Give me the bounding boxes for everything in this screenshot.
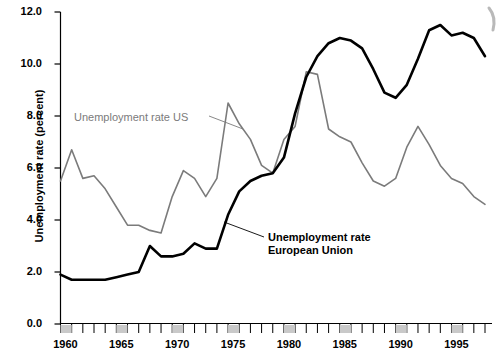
x-tick-label: 1970 [157, 338, 197, 350]
y-tick-label: 10.0 [8, 57, 42, 69]
y-tick-label: 12.0 [8, 5, 42, 17]
x-tick-label: 1960 [46, 338, 86, 350]
chart-plot-area [0, 0, 501, 358]
eu-annotation-line-1: Unemployment rate [268, 231, 371, 244]
x-tick-band [61, 325, 72, 333]
x-tick-label: 1985 [325, 338, 365, 350]
x-tick-label: 1975 [213, 338, 253, 350]
eu-annotation-line-2: European Union [268, 244, 371, 257]
x-tick-band [284, 325, 295, 333]
x-tick-band [396, 325, 407, 333]
x-tick-band [451, 325, 462, 333]
y-tick-label: 4.0 [8, 213, 42, 225]
us-annotation-line-1: Unemployment rate US [74, 111, 188, 123]
series-line-unemployment-rate-us [61, 72, 486, 233]
y-tick-label: 6.0 [8, 161, 42, 173]
x-tick-band [340, 325, 351, 333]
y-tick-label: 2.0 [8, 265, 42, 277]
x-tick-label: 1995 [436, 338, 476, 350]
x-tick-band [228, 325, 239, 333]
y-tick-label: 8.0 [8, 109, 42, 121]
us-series-annotation: Unemployment rate US [74, 111, 188, 124]
eu-series-annotation: Unemployment rate European Union [268, 231, 371, 256]
x-tick-band [172, 325, 183, 333]
x-tick-label: 1980 [269, 338, 309, 350]
x-tick-label: 1990 [381, 338, 421, 350]
x-tick-label: 1965 [101, 338, 141, 350]
x-tick-band [116, 325, 127, 333]
unemployment-rate-chart: Unemployment rate (percent) 0.02.04.06.0… [0, 0, 501, 358]
y-tick-label: 0.0 [8, 317, 42, 329]
y-tick-marks [55, 12, 61, 324]
eu-label-leader-line [224, 222, 264, 237]
page-edge-artifact [489, 8, 494, 30]
